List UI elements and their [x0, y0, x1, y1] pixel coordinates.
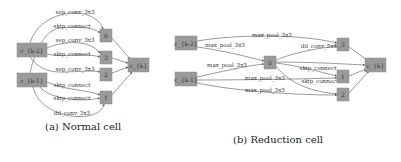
- edge-label: skip_connect: [54, 95, 92, 102]
- node-1: 1: [100, 91, 112, 104]
- edge-label: sep_conv_3x3: [56, 9, 95, 16]
- svg-text:c_{k}: c_{k}: [130, 62, 148, 70]
- edge-label: sep_conv_3x3: [56, 66, 95, 73]
- node-c-k: c_{k}: [128, 58, 149, 72]
- caption-reduction-cell: (b) Reduction cell: [233, 134, 323, 145]
- edge-2-ck: [112, 67, 128, 73]
- edge-label: max_pool_3x3: [207, 62, 247, 69]
- node-2: 2: [100, 68, 112, 81]
- normal-cell: sep_conv_3x3 skip_connect sep_conv_3x3 s…: [17, 9, 149, 117]
- svg-text:2: 2: [104, 71, 108, 78]
- node-c-k: c_{k}: [365, 58, 386, 72]
- edge-label: dil_conv_5x5: [301, 43, 338, 50]
- edge-label: max_pool_3x3: [245, 75, 285, 82]
- edge-label: dil_conv_3x3: [54, 110, 91, 117]
- svg-text:3: 3: [341, 41, 345, 48]
- normal-edge-labels: sep_conv_3x3 skip_connect sep_conv_3x3 s…: [54, 9, 95, 117]
- caption-normal-cell: (a) Normal cell: [45, 121, 121, 132]
- svg-text:1: 1: [104, 94, 108, 101]
- node-c-k-1: c_{k-1}: [174, 72, 198, 86]
- node-c-k-2: c_{k-2}: [17, 43, 47, 57]
- svg-text:c_{k-2}: c_{k-2}: [174, 40, 198, 48]
- svg-text:0: 0: [268, 59, 272, 66]
- edge-3-ck: [112, 58, 128, 63]
- node-c-k-2: c_{k-2}: [174, 36, 198, 50]
- edge-label: skip_connect: [302, 78, 340, 85]
- svg-text:1: 1: [341, 73, 345, 80]
- edge-1-ck: [112, 72, 132, 95]
- node-1: 1: [337, 70, 349, 83]
- reduction-cell: max_pool_3x3 max_pool_3x3 dil_conv_5x5 m…: [174, 32, 386, 101]
- edge-0-ck: [112, 38, 130, 59]
- edge-ck2-0-maxpool: [197, 47, 264, 61]
- svg-text:0: 0: [104, 32, 108, 39]
- edge-label: skip_connect: [54, 51, 92, 58]
- svg-text:c_{k-2}: c_{k-2}: [20, 47, 44, 55]
- edge-2-ck: [349, 71, 369, 93]
- edge-label: max_pool_3x3: [245, 87, 285, 94]
- svg-text:c_{k-1}: c_{k-1}: [174, 76, 198, 84]
- darts-cells-diagram: sep_conv_3x3 skip_connect sep_conv_3x3 s…: [0, 0, 401, 162]
- node-c-k-1: c_{k-1}: [17, 73, 47, 87]
- edge-label: max_pool_3x3: [252, 32, 292, 39]
- edge-1-ck: [349, 69, 366, 76]
- edge-label: skip_connect: [54, 82, 92, 89]
- edge-label: sep_conv_3x3: [56, 37, 95, 44]
- node-3: 3: [337, 38, 349, 51]
- node-0: 0: [264, 56, 276, 69]
- node-0: 0: [100, 29, 112, 42]
- node-2: 2: [337, 88, 349, 101]
- svg-text:c_{k}: c_{k}: [367, 62, 385, 70]
- edge-label: skip_connect: [300, 65, 338, 72]
- svg-text:3: 3: [104, 54, 108, 61]
- edge-3-ck: [349, 47, 367, 60]
- svg-text:2: 2: [341, 91, 345, 98]
- node-3: 3: [100, 51, 112, 64]
- edge-label: skip_connect: [54, 23, 92, 30]
- edge-label: max_pool_3x3: [205, 42, 245, 49]
- svg-text:c_{k-1}: c_{k-1}: [20, 77, 44, 85]
